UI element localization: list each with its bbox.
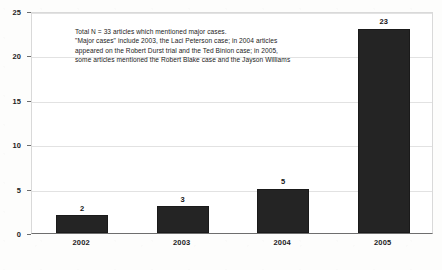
y-axis-label: 10 — [0, 141, 21, 150]
bar-value-label: 2 — [56, 204, 108, 213]
bar-value-label: 5 — [257, 177, 309, 186]
y-axis-tick — [27, 101, 31, 102]
y-axis-tick — [27, 56, 31, 57]
y-axis-tick — [27, 234, 31, 235]
y-axis-label: 20 — [0, 52, 21, 61]
bar[interactable] — [56, 215, 108, 233]
plot-area: 23523 Total N = 33 articles which mentio… — [31, 12, 433, 234]
bar[interactable] — [257, 189, 309, 233]
y-axis-tick — [27, 190, 31, 191]
annotation-line-1: Total N = 33 articles which mentioned ma… — [75, 27, 375, 36]
annotation-line-4: some articles mentioned the Robert Blake… — [75, 55, 375, 64]
x-axis-label: 2003 — [132, 238, 233, 247]
x-axis-label: 2005 — [333, 238, 434, 247]
y-axis-tick — [27, 12, 31, 13]
y-axis-label: 0 — [0, 230, 21, 239]
y-axis-label: 5 — [0, 185, 21, 194]
y-axis-label: 25 — [0, 8, 21, 17]
bar-chart: 23523 Total N = 33 articles which mentio… — [0, 0, 442, 270]
bar-value-label: 3 — [157, 195, 209, 204]
y-axis-label: 15 — [0, 96, 21, 105]
x-axis: 2002200320042005 — [31, 238, 433, 254]
annotation-text-block: Total N = 33 articles which mentioned ma… — [75, 27, 375, 64]
annotation-line-3: appeared on the Robert Durst trial and t… — [75, 46, 375, 55]
x-axis-label: 2004 — [232, 238, 333, 247]
x-axis-label: 2002 — [31, 238, 132, 247]
y-axis-tick — [27, 145, 31, 146]
bar-value-label: 23 — [358, 17, 410, 26]
bar[interactable] — [157, 206, 209, 233]
annotation-line-2: "Major cases" include 2003, the Laci Pet… — [75, 36, 375, 45]
